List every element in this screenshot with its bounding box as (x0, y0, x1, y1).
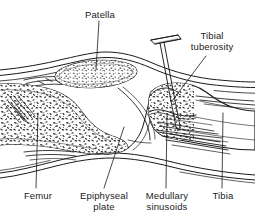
label-tibia: Tibia (203, 191, 243, 202)
femur-bone (0, 80, 136, 160)
label-medullary-sinusoids: Medullary sinusoids (137, 191, 197, 212)
anatomical-figure: Patella Tibial tuberosity Femur Epiphyse… (0, 0, 255, 224)
label-epiphyseal-plate: Epiphyseal plate (73, 191, 135, 212)
skin-lower-contour (0, 153, 255, 183)
label-tibial-tuberosity: Tibial tuberosity (179, 31, 245, 52)
label-patella: Patella (78, 10, 122, 21)
label-femur: Femur (16, 191, 60, 202)
